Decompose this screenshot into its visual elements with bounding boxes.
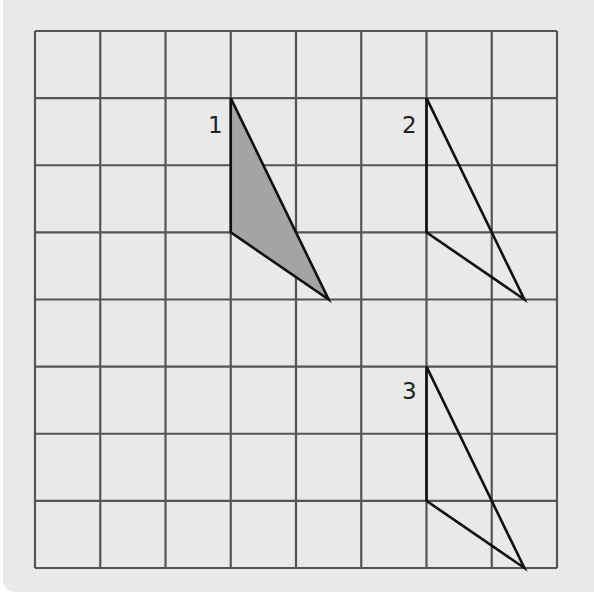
triangle-3 — [427, 367, 525, 568]
triangles — [231, 98, 525, 568]
square-grid — [35, 31, 557, 568]
triangle-label-3: 3 — [402, 378, 417, 404]
triangle-label-2: 2 — [402, 112, 417, 138]
grid-figure: 1 2 3 — [0, 0, 594, 598]
triangle-1 — [231, 98, 329, 299]
triangle-2 — [427, 98, 525, 299]
triangle-label-1: 1 — [208, 112, 223, 138]
